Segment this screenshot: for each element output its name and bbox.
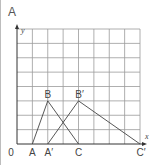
point-label: A′ <box>44 147 53 158</box>
point-label: B <box>44 89 51 100</box>
point-label: B′ <box>75 89 84 100</box>
origin-label: 0 <box>8 147 14 158</box>
point-labels: ABA′CB′C′ <box>29 89 146 158</box>
triangle-segments <box>32 101 140 144</box>
point-label: A <box>29 147 36 158</box>
point-label: C′ <box>136 147 145 158</box>
grid-lines <box>17 29 140 144</box>
x-axis-label: x <box>144 132 149 141</box>
x-axis-arrow-icon <box>142 142 147 146</box>
coordinate-diagram: y x 0 ABA′CB′C′ <box>0 0 155 165</box>
point-label: C <box>75 147 82 158</box>
y-axis-label: y <box>20 26 25 35</box>
segment-line <box>32 101 47 144</box>
y-axis-arrow-icon <box>15 24 19 29</box>
